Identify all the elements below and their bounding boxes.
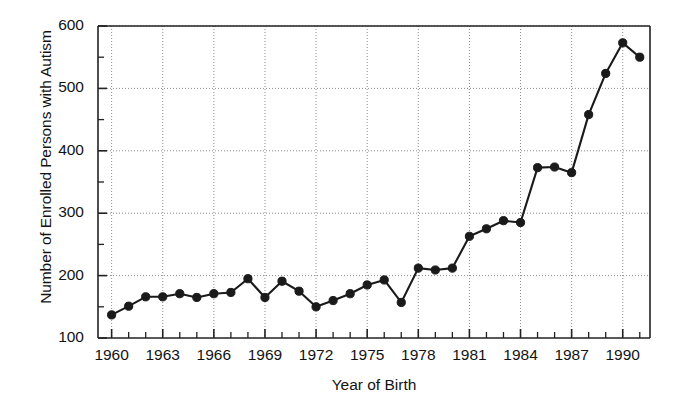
data-point [159,293,167,301]
y-tick-label: 200 [42,266,84,284]
data-point [431,266,439,274]
data-point [125,302,133,310]
y-tick-label: 500 [42,78,84,96]
x-axis-label: Year of Birth [98,376,650,394]
data-point [278,277,286,285]
data-point [363,281,371,289]
data-point [619,39,627,47]
data-point [346,290,354,298]
data-point [176,290,184,298]
data-point [414,264,422,272]
data-point [465,232,473,240]
y-tick-label: 400 [42,141,84,159]
data-point [142,293,150,301]
data-point [244,275,252,283]
y-tick-label: 600 [42,16,84,34]
data-point [210,290,218,298]
data-point [312,303,320,311]
data-point [636,53,644,61]
data-point [397,298,405,306]
y-tick-label: 100 [42,328,84,346]
data-point [261,293,269,301]
data-point [602,69,610,77]
data-point [585,111,593,119]
data-point [568,169,576,177]
data-point [193,293,201,301]
data-point [329,296,337,304]
data-point [533,164,541,172]
data-point [380,276,388,284]
data-point [295,287,303,295]
data-point [108,311,116,319]
x-tick-label: 1990 [593,346,653,364]
data-point [516,218,524,226]
data-point [499,217,507,225]
data-point [482,225,490,233]
data-point [448,264,456,272]
data-series-line [112,43,640,315]
data-point [550,163,558,171]
data-point [227,288,235,296]
y-tick-label: 300 [42,203,84,221]
autism-enrollment-line-chart: Number of Enrolled Persons with Autism Y… [0,0,676,409]
